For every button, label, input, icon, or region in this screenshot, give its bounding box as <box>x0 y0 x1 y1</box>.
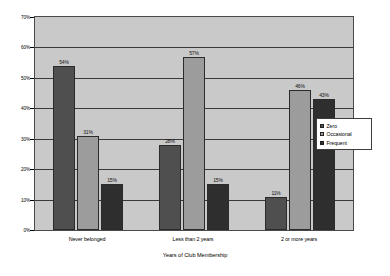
y-axis-tick-label: 60% <box>21 45 30 50</box>
bar-value-label: 11% <box>261 190 291 196</box>
y-axis-tick-label: 10% <box>21 197 30 202</box>
plot-inner: 54%31%15%28%57%15%11%46%43% <box>35 17 353 230</box>
legend-swatch-frequent-icon <box>320 141 324 145</box>
bar-value-label: 15% <box>97 177 127 183</box>
bar-zero-1 <box>159 145 181 230</box>
x-axis-labels: Never belongedLess than 2 years2 or more… <box>34 236 354 248</box>
y-axis-tick-label: 20% <box>21 167 30 172</box>
bar-value-label: 15% <box>203 177 233 183</box>
y-axis-tick-label: 50% <box>21 75 30 80</box>
bar-occasional-2 <box>289 90 311 230</box>
plot-area: 54%31%15%28%57%15%11%46%43% <box>34 16 354 231</box>
y-axis-tick-label: 30% <box>21 136 30 141</box>
legend-label-occasional: Occasional <box>327 131 352 137</box>
legend-item-frequent[interactable]: Frequent <box>320 139 368 146</box>
chart-legend: Zero Occasional Frequent <box>316 118 372 150</box>
gridline <box>35 47 353 48</box>
y-axis: 0%10%20%30%40%50%60%70% <box>0 16 34 232</box>
legend-label-zero: Zero <box>327 123 337 129</box>
legend-label-frequent: Frequent <box>327 140 347 146</box>
x-axis-tick-label: Never belonged <box>69 236 106 243</box>
bar-frequent-1 <box>207 184 229 230</box>
legend-swatch-zero-icon <box>320 124 324 128</box>
x-axis-tick-label: Less than 2 years <box>173 236 214 243</box>
bar-value-label: 46% <box>285 83 315 89</box>
bar-zero-0 <box>53 66 75 230</box>
x-axis-title: Years of Club Membership <box>0 251 390 259</box>
y-axis-tick-label: 40% <box>21 106 30 111</box>
bar-occasional-0 <box>77 136 99 230</box>
legend-item-occasional[interactable]: Occasional <box>320 131 368 138</box>
x-axis-tick-label: 2 or more years <box>281 236 317 243</box>
bar-value-label: 31% <box>73 129 103 135</box>
bar-value-label: 28% <box>155 138 185 144</box>
bar-value-label: 57% <box>179 50 209 56</box>
legend-swatch-occasional-icon <box>320 132 324 136</box>
bar-occasional-1 <box>183 57 205 230</box>
bar-value-label: 54% <box>49 59 79 65</box>
legend-item-zero[interactable]: Zero <box>320 122 368 129</box>
bar-value-label: 43% <box>309 92 339 98</box>
bar-chart: 0%10%20%30%40%50%60%70% 54%31%15%28%57%1… <box>0 0 390 276</box>
bar-zero-2 <box>265 197 287 230</box>
bar-frequent-0 <box>101 184 123 230</box>
y-axis-tick-label: 70% <box>21 15 30 20</box>
